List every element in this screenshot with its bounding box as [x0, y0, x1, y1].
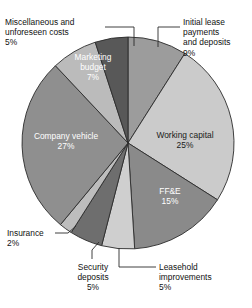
label-insurance: Insurance 2% [7, 228, 44, 248]
label-initial-lease-line1: Initial lease [183, 17, 231, 27]
label-ffe: FF&E 15% [145, 186, 195, 206]
label-miscellaneous: Miscellaneous and unforeseen costs 5% [5, 17, 74, 48]
label-security-deposits-line2: deposits [67, 272, 119, 282]
label-leasehold-line2: improvements [159, 272, 212, 282]
label-company-vehicle-line1: Company vehicle [18, 131, 114, 141]
label-company-vehicle-value: 27% [18, 141, 114, 151]
label-initial-lease: Initial lease payments and deposits 9% [183, 17, 231, 58]
label-working-capital-line1: Working capital [144, 130, 226, 140]
label-company-vehicle: Company vehicle 27% [18, 131, 114, 151]
label-marketing-budget-value: 7% [63, 72, 123, 82]
label-leasehold-value: 5% [159, 282, 212, 292]
label-insurance-value: 2% [7, 238, 44, 248]
label-working-capital-value: 25% [144, 140, 226, 150]
label-security-deposits-line1: Security [67, 262, 119, 272]
label-security-deposits-value: 5% [67, 282, 119, 292]
label-marketing-budget-line1: Marketing [63, 52, 123, 62]
label-ffe-line1: FF&E [145, 186, 195, 196]
label-insurance-line1: Insurance [7, 228, 44, 238]
label-marketing-budget: Marketing budget 7% [63, 52, 123, 83]
leader-line-leasehold [119, 248, 156, 267]
label-working-capital: Working capital 25% [144, 130, 226, 150]
label-marketing-budget-line2: budget [63, 62, 123, 72]
label-initial-lease-value: 9% [183, 48, 231, 58]
label-miscellaneous-line1: Miscellaneous and [5, 17, 74, 27]
label-leasehold-improvements: Leasehold improvements 5% [159, 262, 212, 293]
label-miscellaneous-line2: unforeseen costs [5, 27, 74, 37]
label-initial-lease-line3: and deposits [183, 37, 231, 47]
label-security-deposits: Security deposits 5% [67, 262, 119, 293]
pie-chart-figure: Miscellaneous and unforeseen costs 5% In… [0, 0, 252, 308]
label-ffe-value: 15% [145, 196, 195, 206]
label-initial-lease-line2: payments [183, 27, 231, 37]
label-miscellaneous-value: 5% [5, 37, 74, 47]
label-leasehold-line1: Leasehold [159, 262, 212, 272]
